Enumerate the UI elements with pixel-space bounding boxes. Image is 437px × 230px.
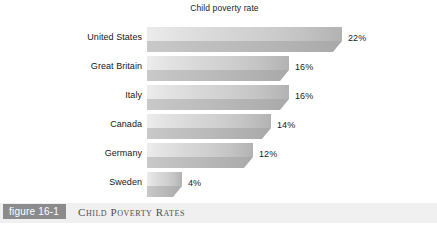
bar-category-label: Great Britain xyxy=(0,61,142,71)
bar-value-label: 22% xyxy=(348,33,366,43)
bar-category-label: Italy xyxy=(0,90,142,100)
bar-value-label: 16% xyxy=(295,91,313,101)
bar-shape xyxy=(147,143,253,168)
bar-row: Germany12% xyxy=(0,142,437,171)
bar-row: United States22% xyxy=(0,26,437,55)
bar-category-label: Sweden xyxy=(0,177,142,187)
figure-container: Child poverty rate United States22%Great… xyxy=(0,0,437,230)
figure-caption-strip: figure 16-1 Child Poverty Rates xyxy=(0,203,437,223)
bar-row: Great Britain16% xyxy=(0,55,437,84)
bar-category-label: United States xyxy=(0,32,142,42)
bar-value-label: 4% xyxy=(188,178,201,188)
bar-shape xyxy=(147,85,289,110)
bar-top-face xyxy=(147,114,271,128)
bar-value-label: 14% xyxy=(277,120,295,130)
bar-row: Sweden4% xyxy=(0,171,437,200)
bar-shape xyxy=(147,114,271,139)
bar-top-face xyxy=(147,27,342,41)
figure-number-badge: figure 16-1 xyxy=(3,204,66,219)
bar-shape xyxy=(147,172,182,197)
bar-value-label: 16% xyxy=(295,62,313,72)
bar-value-label: 12% xyxy=(259,149,277,159)
bar-front-face xyxy=(147,70,289,81)
bar-category-label: Canada xyxy=(0,119,142,129)
figure-caption-text: Child Poverty Rates xyxy=(78,204,185,220)
bar-front-face xyxy=(147,186,182,197)
bar-row: Canada14% xyxy=(0,113,437,142)
bar-top-face xyxy=(147,56,289,70)
bar-category-label: Germany xyxy=(0,148,142,158)
bar-top-face xyxy=(147,85,289,99)
bar-front-face xyxy=(147,99,289,110)
bar-front-face xyxy=(147,157,253,168)
bar-top-face xyxy=(147,172,182,186)
chart-plot-area: United States22%Great Britain16%Italy16%… xyxy=(0,20,437,200)
bar-row: Italy16% xyxy=(0,84,437,113)
bar-shape xyxy=(147,56,289,81)
bar-top-face xyxy=(147,143,253,157)
bar-front-face xyxy=(147,128,271,139)
bar-front-face xyxy=(147,41,342,52)
chart-title: Child poverty rate xyxy=(0,3,437,13)
bar-shape xyxy=(147,27,342,52)
